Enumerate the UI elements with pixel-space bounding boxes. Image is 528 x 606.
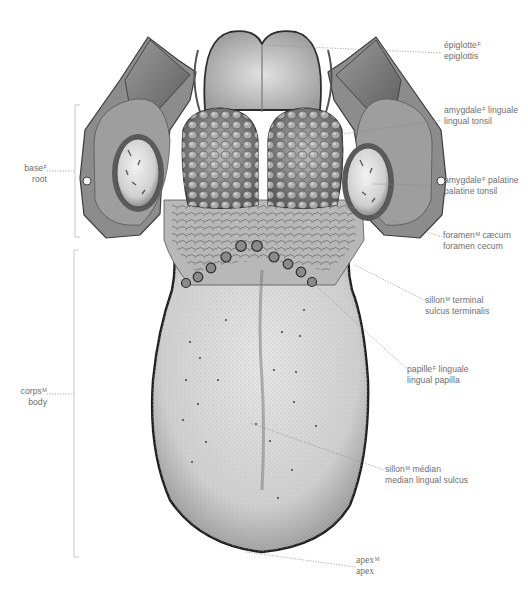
label-lingual-papilla-fr: papille bbox=[407, 364, 432, 374]
label-median-lingual-sulcus: sillonM médian median lingual sulcus bbox=[385, 464, 468, 485]
label-apex: apexM apex bbox=[356, 555, 380, 576]
left-pin-marker bbox=[83, 177, 91, 185]
label-body: corpsM body bbox=[21, 386, 47, 407]
lingual-tonsil bbox=[182, 108, 343, 209]
label-root: baseF root bbox=[24, 163, 47, 184]
gender-marker: M bbox=[475, 231, 480, 237]
gender-marker: M bbox=[445, 296, 450, 302]
label-lingual-papilla-en: lingual papilla bbox=[407, 375, 469, 386]
label-epiglottis-fr: épiglotte bbox=[444, 40, 477, 50]
label-lingual-tonsil-fr-suffix: linguale bbox=[486, 105, 518, 115]
label-median-sulcus-en: median lingual sulcus bbox=[385, 475, 468, 486]
label-apex-fr: apex bbox=[356, 555, 374, 565]
gender-marker: M bbox=[42, 387, 47, 393]
tongue-diagram: épiglotteF epiglottis amygdaleF linguale… bbox=[0, 0, 528, 606]
label-sulcus-terminalis-fr: sillon bbox=[425, 295, 445, 305]
label-sulcus-terminalis: sillonM terminal sulcus terminalis bbox=[425, 295, 489, 316]
label-sulcus-terminalis-fr-suffix: terminal bbox=[450, 295, 483, 305]
label-foramen-cecum-fr-suffix: cæcum bbox=[480, 230, 511, 240]
region-brackets bbox=[74, 105, 80, 557]
label-body-fr: corps bbox=[21, 386, 42, 396]
label-median-sulcus-fr-suffix: médian bbox=[410, 464, 441, 474]
label-palatine-tonsil-en: palatine tonsil bbox=[444, 186, 519, 197]
leader-apex bbox=[246, 552, 355, 567]
bracket-body bbox=[74, 250, 79, 557]
leader-sulcus-terminalis bbox=[355, 265, 426, 301]
label-lingual-papilla-fr-suffix: linguale bbox=[436, 364, 468, 374]
palatine-tonsil-right bbox=[342, 143, 394, 221]
label-palatine-tonsil-fr: amygdale bbox=[444, 175, 482, 185]
gender-marker: F bbox=[482, 176, 485, 182]
gender-marker: F bbox=[482, 106, 485, 112]
bracket-root bbox=[75, 105, 80, 237]
label-foramen-cecum-fr: foramen bbox=[443, 230, 475, 240]
label-body-en: body bbox=[21, 397, 47, 408]
label-epiglottis-en: epiglottis bbox=[444, 51, 481, 62]
label-apex-en: apex bbox=[356, 566, 380, 577]
label-median-sulcus-fr: sillon bbox=[385, 464, 405, 474]
label-palatine-tonsil: amygdaleF palatine palatine tonsil bbox=[444, 175, 519, 196]
label-sulcus-terminalis-en: sulcus terminalis bbox=[425, 306, 489, 317]
label-lingual-papilla: papilleF linguale lingual papilla bbox=[407, 364, 469, 385]
label-root-en: root bbox=[24, 174, 47, 185]
label-foramen-cecum: foramenM cæcum foramen cecum bbox=[443, 230, 511, 251]
palatine-tonsil-left bbox=[112, 134, 164, 212]
label-foramen-cecum-en: foramen cecum bbox=[443, 241, 511, 252]
epiglottis bbox=[194, 31, 331, 112]
gender-marker: M bbox=[405, 465, 410, 471]
label-palatine-tonsil-fr-suffix: palatine bbox=[486, 175, 519, 185]
label-lingual-tonsil-en: lingual tonsil bbox=[444, 116, 518, 127]
label-lingual-tonsil-fr: amygdale bbox=[444, 105, 482, 115]
label-lingual-tonsil: amygdaleF linguale lingual tonsil bbox=[444, 105, 518, 126]
gender-marker: M bbox=[375, 556, 380, 562]
label-root-fr: base bbox=[24, 163, 43, 173]
gender-marker: F bbox=[477, 41, 480, 47]
gender-marker: F bbox=[433, 365, 436, 371]
gender-marker: F bbox=[44, 164, 47, 170]
label-epiglottis: épiglotteF epiglottis bbox=[444, 40, 481, 61]
